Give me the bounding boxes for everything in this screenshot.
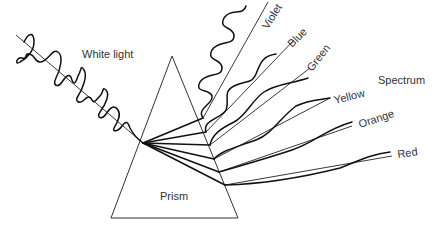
ray-yellow: Yellow bbox=[214, 87, 366, 159]
prism-label: Prism bbox=[160, 190, 188, 202]
label-yellow: Yellow bbox=[333, 87, 366, 106]
white-light-label: White light bbox=[82, 48, 133, 60]
ray-violet: Violet bbox=[199, 2, 285, 118]
ray-blue: Blue bbox=[205, 25, 309, 132]
internal-rays bbox=[143, 118, 225, 185]
ray-red: Red bbox=[225, 145, 418, 185]
label-green: Green bbox=[304, 42, 332, 73]
label-blue: Blue bbox=[285, 25, 309, 49]
label-red: Red bbox=[397, 145, 419, 160]
label-orange: Orange bbox=[357, 107, 396, 130]
ray-orange: Orange bbox=[219, 107, 396, 172]
spectrum-label: Spectrum bbox=[378, 74, 425, 86]
label-violet: Violet bbox=[260, 2, 285, 32]
prism-diagram: Prism White light Violet Blue Green Yell… bbox=[0, 0, 436, 228]
